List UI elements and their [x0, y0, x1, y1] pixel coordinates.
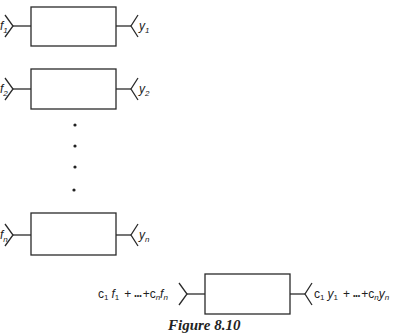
- ellipsis-dot: [73, 144, 76, 147]
- input-label-2: f2: [0, 82, 8, 98]
- system-1: [5, 7, 138, 46]
- combined-system: [179, 274, 312, 314]
- output-label-1: y1: [138, 19, 149, 35]
- output-label-2: y2: [138, 82, 150, 98]
- output-chevron-icon: [131, 224, 138, 246]
- ellipsis-dot: [73, 165, 76, 168]
- combined-input-label: c1f1+•••+cnfn: [98, 287, 168, 302]
- system-n: [5, 213, 138, 255]
- vertical-ellipsis: [72, 123, 76, 191]
- ellipsis-dot: [72, 188, 75, 191]
- input-label-1: f1: [0, 19, 8, 35]
- output-chevron-icon: [131, 78, 138, 100]
- superposition-diagram: f1 y1 f2 y2 fn yn c1f1+•••+cnfn c1y1+•••…: [0, 0, 405, 336]
- input-label-n: fn: [0, 228, 8, 244]
- system-2: [5, 69, 138, 109]
- output-chevron-icon: [305, 283, 312, 305]
- system-box-1: [31, 7, 116, 46]
- output-chevron-icon: [131, 15, 138, 37]
- ellipsis-dot: [73, 123, 76, 126]
- figure-caption: Figure 8.10: [168, 317, 241, 334]
- system-box-n: [31, 213, 116, 255]
- system-box-2: [31, 69, 116, 109]
- system-box-combined: [205, 274, 290, 314]
- input-chevron-icon: [179, 283, 187, 305]
- combined-output-label: c1y1+•••+cnyn: [314, 287, 390, 302]
- output-label-n: yn: [138, 228, 150, 244]
